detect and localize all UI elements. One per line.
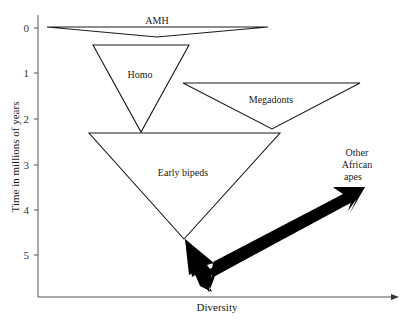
x-axis-arrowhead-icon	[391, 294, 399, 300]
y-axis-ticks	[34, 28, 38, 255]
y-tick-2: 2	[24, 113, 30, 125]
outgroup-label-line3: apes	[344, 171, 362, 182]
megadonts-triangle	[183, 83, 360, 129]
homo-triangle	[93, 45, 189, 132]
y-tick-4: 4	[24, 204, 30, 216]
y-axis-label: Time in millions of years	[9, 102, 21, 213]
homo-label: Homo	[128, 69, 153, 80]
y-tick-5: 5	[24, 249, 30, 261]
early-bipeds-label: Early bipeds	[158, 167, 208, 178]
amh-label: AMH	[145, 15, 168, 26]
phylogeny-diagram: 0 1 2 3 4 5 Time in millions of years Di…	[0, 0, 411, 322]
outgroup-label-line2: African	[342, 159, 373, 170]
early-bipeds-triangle	[89, 133, 280, 239]
megadonts-label: Megadonts	[249, 94, 294, 105]
amh-triangle	[47, 27, 268, 37]
divergence-arrow-body	[185, 187, 365, 292]
y-tick-3: 3	[24, 159, 30, 171]
outgroup-label-line1: Other	[346, 147, 369, 158]
x-axis-label: Diversity	[197, 301, 238, 313]
y-tick-0: 0	[24, 22, 30, 34]
y-tick-1: 1	[24, 67, 30, 79]
